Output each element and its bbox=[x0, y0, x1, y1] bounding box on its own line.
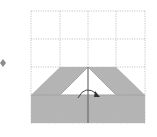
folding-diagram bbox=[0, 0, 157, 137]
step-arrow-icon bbox=[0, 59, 6, 67]
